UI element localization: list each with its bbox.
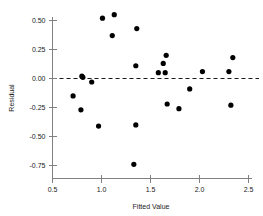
data-point	[112, 12, 117, 17]
x-axis-tick-label: 1.5	[146, 186, 156, 193]
data-point	[165, 101, 170, 106]
data-point	[70, 93, 75, 98]
data-point	[110, 33, 115, 38]
data-point	[80, 75, 85, 80]
x-axis-tick-label: 2.5	[244, 186, 254, 193]
y-axis-tick-label: -0.50	[30, 133, 46, 140]
data-point	[187, 86, 192, 91]
plot-canvas: 0.500.250.00-0.25-0.50-0.75 0.51.01.52.0…	[0, 0, 263, 216]
y-axis-tick-label: 0.25	[32, 46, 46, 53]
data-point	[200, 69, 205, 74]
x-axis-tick-label: 1.0	[97, 186, 107, 193]
data-point	[133, 63, 138, 68]
x-axis-tick-label: 0.5	[48, 186, 58, 193]
x-axis-tick-label: 2.0	[195, 186, 205, 193]
data-point	[96, 123, 101, 128]
y-axis-tick-label: -0.75	[30, 162, 46, 169]
data-point	[226, 69, 231, 74]
data-point	[78, 107, 83, 112]
data-point	[164, 53, 169, 58]
data-point	[161, 61, 166, 66]
data-point	[134, 26, 139, 31]
data-point	[228, 103, 233, 108]
data-point	[176, 106, 181, 111]
y-axis-group: 0.500.250.00-0.25-0.50-0.75	[30, 17, 57, 179]
x-axis-group: 0.51.01.52.02.5	[48, 175, 254, 193]
y-axis-tick-label: 0.50	[32, 17, 46, 24]
x-axis-title: Fitted Value	[133, 203, 170, 210]
data-point	[131, 162, 136, 167]
data-point	[230, 55, 235, 60]
data-point	[100, 16, 105, 21]
data-points-group	[70, 12, 235, 167]
data-point	[163, 70, 168, 75]
data-point	[156, 70, 161, 75]
residual-scatter-chart: 0.500.250.00-0.25-0.50-0.75 0.51.01.52.0…	[0, 0, 263, 216]
y-axis-title: Residual	[8, 84, 15, 112]
y-axis-tick-label: -0.25	[30, 104, 46, 111]
y-axis-tick-label: 0.00	[32, 75, 46, 82]
data-point	[133, 122, 138, 127]
data-point	[89, 79, 94, 84]
